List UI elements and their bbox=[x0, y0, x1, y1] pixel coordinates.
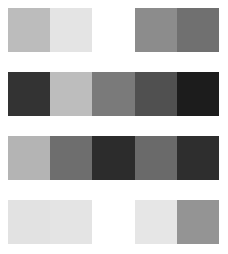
swatch bbox=[177, 8, 219, 52]
swatch bbox=[92, 72, 134, 116]
swatch bbox=[177, 136, 219, 180]
swatch bbox=[135, 8, 177, 52]
swatch bbox=[50, 136, 92, 180]
swatch bbox=[50, 8, 92, 52]
swatch bbox=[177, 72, 219, 116]
swatch-row bbox=[8, 8, 219, 52]
swatch-row bbox=[8, 200, 219, 244]
swatch-row bbox=[8, 72, 219, 116]
swatch bbox=[50, 200, 92, 244]
swatch bbox=[8, 8, 50, 52]
swatch bbox=[92, 200, 134, 244]
swatch bbox=[135, 72, 177, 116]
swatch-row bbox=[8, 136, 219, 180]
grayscale-swatch-grid bbox=[8, 8, 219, 244]
swatch bbox=[92, 8, 134, 52]
swatch bbox=[50, 72, 92, 116]
swatch bbox=[92, 136, 134, 180]
swatch bbox=[135, 136, 177, 180]
swatch bbox=[8, 72, 50, 116]
swatch bbox=[135, 200, 177, 244]
swatch bbox=[8, 136, 50, 180]
swatch bbox=[177, 200, 219, 244]
swatch bbox=[8, 200, 50, 244]
